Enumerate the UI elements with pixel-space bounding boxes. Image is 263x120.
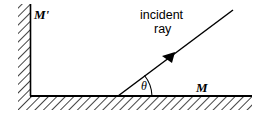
hatching-icon: [18, 4, 30, 96]
incident-ray-caption-line2: ray: [154, 22, 172, 36]
vertical-mirror-body: [18, 4, 31, 97]
diagram-canvas: M' M θ incident ray: [0, 0, 263, 120]
horizontal-mirror-body: [18, 96, 252, 110]
horizontal-mirror-label: M: [195, 80, 208, 95]
physics-diagram: M' M θ incident ray: [0, 0, 263, 120]
hatching-icon: [18, 96, 252, 110]
angle-label: θ: [141, 79, 147, 93]
incident-ray-line: [118, 10, 233, 96]
incident-ray: [118, 10, 233, 96]
vertical-mirror-label: M': [33, 7, 50, 22]
incident-ray-caption-line1: incident: [140, 8, 184, 22]
